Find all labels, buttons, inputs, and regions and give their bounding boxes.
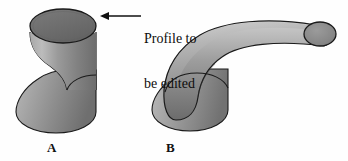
leader-arrow-head [100,12,109,20]
shape-b-end-cap [304,22,336,46]
leader-arrow [100,12,141,20]
figure-root: Profile to be edited A B [0,0,348,161]
callout-line-1: Profile to [144,31,240,46]
callout-annotation: Profile to be edited [144,1,240,121]
shape-label-a: A [47,140,56,156]
callout-line-2: be edited [144,76,240,91]
shape-label-b: B [166,140,175,156]
shape-a-top-profile-face[interactable] [30,9,96,43]
shape-a-group [16,9,96,133]
